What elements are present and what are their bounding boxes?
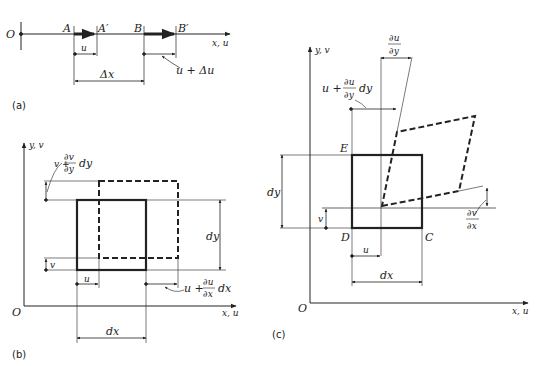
panel-b-du-num: ∂u xyxy=(203,277,214,287)
panel-a-u-label: u xyxy=(81,43,87,53)
panel-c-dv-dx-den: ∂x xyxy=(467,221,477,231)
panel-b-dv-num: ∂v xyxy=(64,152,74,162)
panel-b-origin-label: O xyxy=(12,306,21,319)
panel-a-origin-label: O xyxy=(6,28,15,41)
point-a-label: A xyxy=(62,22,71,35)
panel-b-dx-label: dx xyxy=(106,325,120,338)
point-b-label: B xyxy=(133,22,142,35)
panel-c xyxy=(280,47,528,303)
panel-b-dx-tail: dx xyxy=(218,282,232,295)
panel-a-axis-label: x, u xyxy=(212,38,229,48)
panel-a-u-du-label: u + Δu xyxy=(176,64,214,77)
original-element xyxy=(77,200,146,270)
point-c-label: C xyxy=(425,231,434,244)
strain-displacement-figure: O A A′ B B′ x, u u u + Δu Δx (a) xyxy=(0,0,537,366)
panel-c-dy-label: dy xyxy=(267,186,281,199)
point-e-label: E xyxy=(339,142,348,155)
original-element xyxy=(352,155,422,228)
panel-c-origin-label: O xyxy=(298,302,307,315)
origin-dot xyxy=(20,33,23,36)
point-d-label: D xyxy=(340,231,350,244)
deformed-element xyxy=(382,116,475,206)
panel-b-dy-den: ∂y xyxy=(64,164,75,174)
panel-c-u-plus: u + xyxy=(322,82,342,95)
panel-a-delta-x-label: Δx xyxy=(99,68,115,81)
panel-b-u-label: u xyxy=(84,274,90,284)
panel-b xyxy=(24,143,236,343)
panel-b-caption: (b) xyxy=(12,349,26,360)
panel-c-y-axis-label: y, v xyxy=(314,45,330,55)
panel-c-caption: (c) xyxy=(272,329,285,340)
panel-c-u-plus-tail: dy xyxy=(359,82,373,95)
panel-b-dx-den: ∂x xyxy=(203,289,213,299)
panel-c-u-label: u xyxy=(363,245,369,255)
panel-c-x-axis-label: x, u xyxy=(512,306,529,316)
panel-b-u-plus: u + xyxy=(184,282,204,295)
panel-b-dy-tail: dy xyxy=(79,157,93,170)
point-a-prime-label: A′ xyxy=(97,22,109,35)
panel-c-u-plus-num: ∂u xyxy=(344,77,355,87)
panel-b-dy-label: dy xyxy=(206,230,220,243)
panel-c-dv-dx-num: ∂v xyxy=(467,208,477,218)
panel-c-u-plus-den: ∂y xyxy=(344,90,355,100)
panel-b-v-label: v xyxy=(50,260,55,270)
displaced-element xyxy=(99,181,178,258)
panel-c-du-dy-num: ∂u xyxy=(389,33,400,43)
panel-a-caption: (a) xyxy=(12,100,26,111)
panel-c-v-label: v xyxy=(318,214,323,224)
panel-c-dx-label: dx xyxy=(380,269,394,282)
panel-c-du-dy-den: ∂y xyxy=(389,46,400,56)
panel-b-x-axis-label: x, u xyxy=(222,308,239,318)
panel-b-y-axis-label: y, v xyxy=(28,140,44,150)
point-b-prime-label: B′ xyxy=(177,22,189,35)
